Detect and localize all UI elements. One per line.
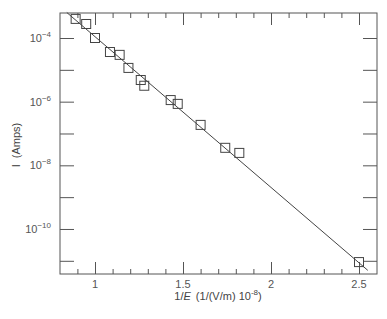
square-marker-icon bbox=[140, 81, 149, 90]
square-marker-icon bbox=[124, 63, 133, 72]
y-tick-label: 10−8 bbox=[30, 157, 52, 171]
y-tick-label: 10−6 bbox=[30, 94, 52, 108]
x-tick-label: 1.5 bbox=[175, 278, 190, 290]
square-marker-icon bbox=[82, 19, 91, 28]
x-axis-label: 1/E(1/(V/m) 10-8) bbox=[174, 288, 261, 302]
square-marker-icon bbox=[91, 34, 100, 43]
square-marker-icon bbox=[235, 148, 244, 157]
square-marker-icon bbox=[115, 50, 124, 59]
x-tick-label: 2 bbox=[268, 278, 274, 290]
square-marker-icon bbox=[196, 120, 205, 129]
square-marker-icon bbox=[173, 99, 182, 108]
square-marker-icon bbox=[105, 48, 114, 57]
x-tick-label: 2.5 bbox=[351, 278, 366, 290]
y-tick-label: 10−10 bbox=[25, 221, 51, 235]
square-marker-icon bbox=[221, 143, 230, 152]
y-axis-label: I(Amps) bbox=[10, 123, 22, 168]
y-tick-label: 10−4 bbox=[30, 30, 52, 44]
chart: 11.522.510−410−610−810−10 1/E(1/(V/m) 10… bbox=[0, 0, 387, 319]
x-tick-label: 1 bbox=[92, 278, 98, 290]
square-marker-icon bbox=[355, 258, 364, 267]
square-marker-icon bbox=[71, 14, 80, 23]
tick-labels: 11.522.510−410−610−810−10 bbox=[25, 30, 366, 290]
